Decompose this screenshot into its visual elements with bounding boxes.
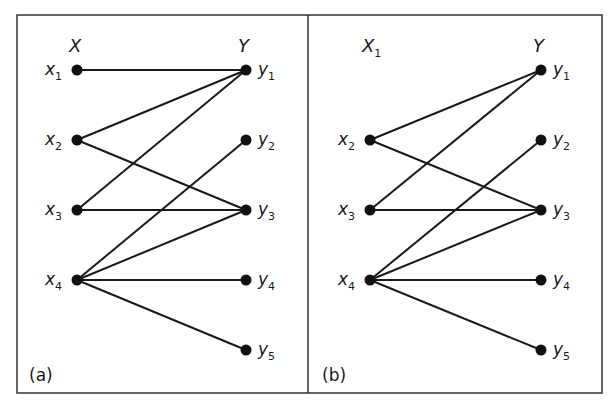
node-label-y4: y4	[552, 269, 570, 293]
bipartite-graph-figure: x1x2x3x4y1y2y3y4y5XY(a)x2x3x4y1y2y3y4y5X…	[0, 0, 615, 410]
panel-b: x2x3x4y1y2y3y4y5X1Y(b)	[322, 35, 570, 385]
node-label-x2: x2	[337, 129, 355, 153]
edge-x2-y3	[370, 140, 541, 210]
set-label-x: X1	[361, 35, 381, 60]
node-y5	[241, 345, 252, 356]
node-label-y5: y5	[552, 339, 570, 363]
panel-a: x1x2x3x4y1y2y3y4y5XY(a)	[29, 35, 275, 385]
node-y2	[536, 135, 547, 146]
node-x4	[72, 275, 83, 286]
set-label-x: X	[68, 35, 82, 56]
node-x3	[72, 205, 83, 216]
node-y4	[536, 275, 547, 286]
node-y4	[241, 275, 252, 286]
node-x3	[365, 205, 376, 216]
node-x1	[72, 65, 83, 76]
node-y1	[536, 65, 547, 76]
edge-x4-y3	[77, 210, 246, 280]
edge-x3-y1	[370, 70, 541, 210]
node-x2	[72, 135, 83, 146]
node-y1	[241, 65, 252, 76]
edge-x2-y1	[77, 70, 246, 140]
panel-caption-a: (a)	[29, 365, 53, 385]
outer-frame	[17, 15, 602, 393]
node-label-x4: x4	[337, 269, 355, 293]
node-y3	[241, 205, 252, 216]
node-label-y1: y1	[257, 59, 275, 83]
node-x4	[365, 275, 376, 286]
node-y5	[536, 345, 547, 356]
node-x2	[365, 135, 376, 146]
node-y2	[241, 135, 252, 146]
node-label-y3: y3	[257, 199, 275, 223]
node-label-y2: y2	[552, 129, 570, 153]
node-y3	[536, 205, 547, 216]
node-label-y5: y5	[257, 339, 275, 363]
set-label-y: Y	[533, 35, 546, 56]
node-label-y3: y3	[552, 199, 570, 223]
panel-caption-b: (b)	[322, 365, 346, 385]
node-label-y1: y1	[552, 59, 570, 83]
node-label-x3: x3	[337, 199, 355, 223]
node-label-x3: x3	[44, 199, 62, 223]
node-label-x1: x1	[44, 59, 62, 83]
edge-x2-y3	[77, 140, 246, 210]
edge-x4-y5	[77, 280, 246, 350]
edge-x4-y3	[370, 210, 541, 280]
edge-x2-y1	[370, 70, 541, 140]
edge-x3-y1	[77, 70, 246, 210]
node-label-y2: y2	[257, 129, 275, 153]
node-label-y4: y4	[257, 269, 275, 293]
node-label-x2: x2	[44, 129, 62, 153]
node-label-x4: x4	[44, 269, 62, 293]
set-label-y: Y	[238, 35, 251, 56]
edge-x4-y5	[370, 280, 541, 350]
